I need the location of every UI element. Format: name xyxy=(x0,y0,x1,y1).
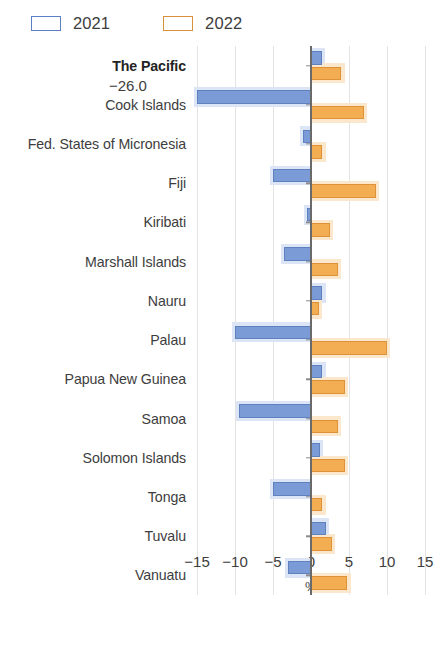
x-tick-label: −5 xyxy=(264,553,281,570)
category-label: Marshall Islands xyxy=(0,254,186,270)
bar-2021 xyxy=(239,404,311,418)
x-tick-label: 10 xyxy=(379,553,396,570)
bar-2022 xyxy=(311,263,338,277)
bar-2022 xyxy=(311,537,332,551)
gridline xyxy=(273,46,274,595)
bar-2022 xyxy=(311,420,338,434)
x-tick-label: −15 xyxy=(184,553,209,570)
bar-2022 xyxy=(311,459,345,473)
bar-2022 xyxy=(311,341,387,355)
bar-2021 xyxy=(284,247,311,261)
bar-2022 xyxy=(311,380,345,394)
x-tick-label: −10 xyxy=(222,553,247,570)
x-tick-label: 15 xyxy=(417,553,434,570)
gridline xyxy=(387,46,388,595)
legend-swatch-2022-icon xyxy=(163,16,193,31)
legend-label-2021: 2021 xyxy=(73,14,110,33)
bar-2022 xyxy=(311,302,319,316)
category-label: Cook Islands xyxy=(0,97,186,113)
bar-2021 xyxy=(273,482,311,496)
bar-2021 xyxy=(311,443,320,457)
bar-2021 xyxy=(235,326,311,340)
gridline xyxy=(425,46,426,595)
bar-2022 xyxy=(311,184,376,198)
bar-2021 xyxy=(311,365,322,379)
category-label: Palau xyxy=(0,332,186,348)
bar-2021 xyxy=(311,286,322,300)
category-label: Solomon Islands xyxy=(0,450,186,466)
value-annotation: −26.0 xyxy=(109,76,147,93)
category-label: Kiribati xyxy=(0,214,186,230)
x-tick-label: 5 xyxy=(345,553,353,570)
bar-2021 xyxy=(197,90,311,104)
gridline xyxy=(197,46,198,595)
bar-2022 xyxy=(311,223,330,237)
bar-2021 xyxy=(311,522,326,536)
bar-2021 xyxy=(311,51,322,65)
legend-swatch-2021-icon xyxy=(31,16,61,31)
legend-label-2022: 2022 xyxy=(205,14,242,33)
bar-2022 xyxy=(311,106,364,120)
bar-2022 xyxy=(311,576,347,590)
zero-axis-line xyxy=(310,46,312,595)
chart-legend: 2021 2022 xyxy=(0,0,439,46)
category-label: Tuvalu xyxy=(0,528,186,544)
bar-2022 xyxy=(311,67,341,81)
category-label: Vanuatu xyxy=(0,567,186,583)
chart-plot-area: The PacificCook IslandsFed. States of Mi… xyxy=(0,46,439,606)
category-label: Nauru xyxy=(0,293,186,309)
gridline xyxy=(349,46,350,595)
gridline xyxy=(235,46,236,595)
bars-canvas: −26.0 xyxy=(197,46,425,595)
category-label: Papua New Guinea xyxy=(0,371,186,387)
category-label: Tonga xyxy=(0,489,186,505)
category-label: Fed. States of Micronesia xyxy=(0,136,186,152)
category-label: Fiji xyxy=(0,175,186,191)
bar-2022 xyxy=(311,145,322,159)
category-axis-labels: The PacificCook IslandsFed. States of Mi… xyxy=(0,46,194,595)
legend-item-2022: 2022 xyxy=(163,14,242,33)
bar-2021 xyxy=(288,561,311,575)
category-label: Samoa xyxy=(0,411,186,427)
bar-2022 xyxy=(311,498,322,512)
category-label: The Pacific xyxy=(0,58,186,74)
bar-2021 xyxy=(273,169,311,183)
legend-item-2021: 2021 xyxy=(31,14,110,33)
